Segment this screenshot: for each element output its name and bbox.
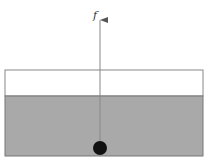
force-label: f	[92, 9, 99, 22]
buoyancy-diagram: f	[0, 0, 214, 166]
ball	[93, 141, 107, 155]
container-air-region	[5, 70, 203, 96]
